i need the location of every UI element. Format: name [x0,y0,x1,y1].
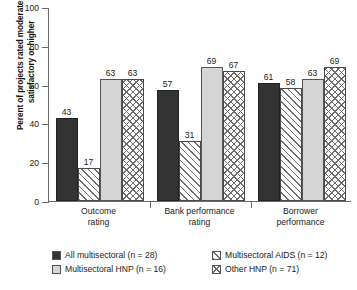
legend-swatch-icon [52,251,61,260]
bar-value-label: 67 [229,61,239,70]
y-axis-tick: 0 [42,202,49,203]
bar: 69 [324,67,346,201]
bar-group: 61586369 [251,8,352,201]
x-axis-category-label-line: rating [149,217,250,228]
bar: 63 [302,79,324,201]
plot-area: 020406080100431763635731696761586369 [48,8,351,202]
bar: 17 [78,168,100,201]
y-axis-tick-label: 80 [29,42,39,52]
x-axis-category-label: Borrowerperformance [250,206,351,227]
bar-value-label: 58 [286,78,296,87]
bar-slot: 63 [122,8,144,201]
bar-value-label: 63 [308,69,318,78]
bar-value-label: 63 [128,69,138,78]
bar: 57 [157,90,179,201]
legend-item[interactable]: Multisectoral AIDS (n = 12) [212,248,357,262]
bar-group: 43176363 [49,8,150,201]
x-axis-category-label: Outcomerating [48,206,149,227]
bar-slot: 61 [258,8,280,201]
y-axis-tick-label: 60 [29,81,39,91]
y-axis-tick: 80 [42,47,49,48]
y-axis-tick: 60 [42,86,49,87]
y-axis-tick-label: 100 [25,3,39,13]
x-axis-category-label-line: rating [48,217,149,228]
bar-value-label: 69 [330,57,340,66]
bar-value-label: 61 [264,73,274,82]
bar-value-label: 63 [106,69,116,78]
bar: 63 [122,79,144,201]
x-axis-category-label-line: Borrower [250,206,351,217]
bar-value-label: 43 [62,108,72,117]
bar-group: 57316967 [150,8,251,201]
y-axis-tick-label: 0 [34,197,39,207]
x-axis-category-label-line: Bank performance [149,206,250,217]
y-axis-tick: 100 [42,8,49,9]
bar-slot: 63 [100,8,122,201]
bar-value-label: 31 [185,131,195,140]
bar-group-bars: 57316967 [150,8,251,201]
bar: 43 [56,118,78,201]
x-axis-category-label-line: performance [250,217,351,228]
y-axis-tick-label: 40 [29,119,39,129]
bar: 61 [258,83,280,201]
bar: 63 [100,79,122,201]
legend-item[interactable]: Multisectoral HNP (n = 16) [52,262,212,276]
bar-value-label: 69 [207,57,217,66]
bar-slot: 17 [78,8,100,201]
x-axis-category-label-line: Outcome [48,206,149,217]
legend-item[interactable]: All multisectoral (n = 28) [52,248,212,262]
x-axis-category-label: Bank performancerating [149,206,250,227]
bar-slot: 69 [324,8,346,201]
legend-item-label: Other HNP (n = 71) [225,264,299,274]
legend-item[interactable]: Other HNP (n = 71) [212,262,357,276]
legend-item-label: Multisectoral AIDS (n = 12) [225,250,327,260]
legend-swatch-icon [52,265,61,274]
bar-slot: 69 [201,8,223,201]
bar-slot: 63 [302,8,324,201]
legend-swatch-icon [212,251,221,260]
bar-slot: 31 [179,8,201,201]
bar-group-bars: 61586369 [251,8,352,201]
bar: 58 [280,88,302,201]
bar-value-label: 17 [84,158,94,167]
y-axis-tick: 40 [42,124,49,125]
bar-value-label: 57 [163,80,173,89]
y-axis-tick: 20 [42,163,49,164]
bar: 69 [201,67,223,201]
bar-slot: 43 [56,8,78,201]
legend-item-label: All multisectoral (n = 28) [65,250,157,260]
bar-chart: Perent of projects rated moderately sati… [0,0,357,290]
bar-slot: 57 [157,8,179,201]
bar: 67 [223,71,245,201]
bar-slot: 58 [280,8,302,201]
chart-legend: All multisectoral (n = 28)Multisectoral … [52,248,344,276]
y-axis-tick-label: 20 [29,158,39,168]
bar-group-bars: 43176363 [49,8,150,201]
bar-slot: 67 [223,8,245,201]
bar: 31 [179,141,201,201]
legend-swatch-icon [212,265,221,274]
legend-item-label: Multisectoral HNP (n = 16) [65,264,166,274]
